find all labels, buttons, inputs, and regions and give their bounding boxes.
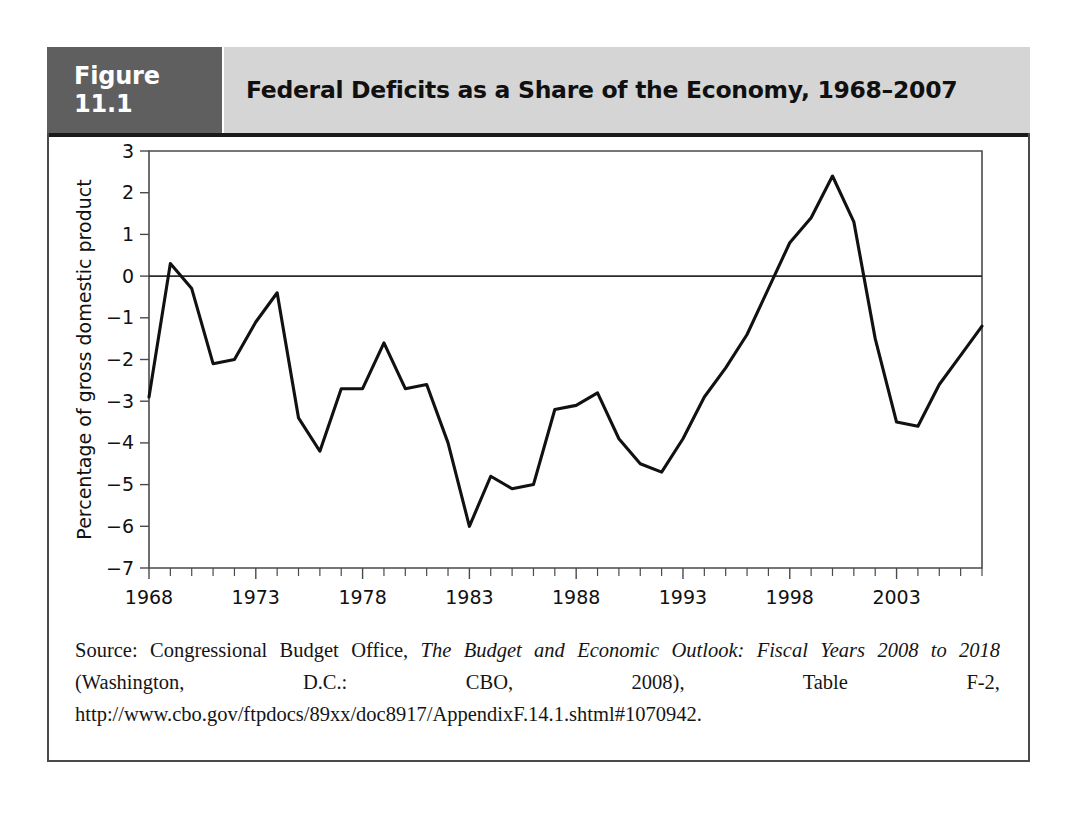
y-tick-label: −6 bbox=[106, 515, 134, 537]
x-tick-label: 1978 bbox=[338, 586, 386, 608]
y-tick-label: 2 bbox=[122, 181, 134, 203]
y-tick-label: −1 bbox=[106, 306, 134, 328]
source-prefix: Source: Congressional Budget Office, bbox=[75, 639, 421, 661]
y-axis: 3210−1−2−3−4−5−6−7 bbox=[106, 140, 149, 579]
chart-area: 3210−1−2−3−4−5−6−7 196819731978198319881… bbox=[47, 137, 1030, 617]
figure-header: Figure 11.1 Federal Deficits as a Share … bbox=[47, 47, 1030, 133]
x-tick-label: 1993 bbox=[659, 586, 707, 608]
y-tick-label: −4 bbox=[106, 431, 134, 453]
line-chart: 3210−1−2−3−4−5−6−7 196819731978198319881… bbox=[47, 137, 1030, 617]
x-tick-label: 1998 bbox=[766, 586, 814, 608]
figure-container: Figure 11.1 Federal Deficits as a Share … bbox=[47, 47, 1030, 762]
y-tick-label: −2 bbox=[106, 348, 134, 370]
y-tick-label: −7 bbox=[106, 557, 134, 579]
plot-frame bbox=[149, 151, 982, 568]
x-tick-label: 1968 bbox=[125, 586, 173, 608]
x-axis: 19681973197819831988199319982003 bbox=[125, 568, 982, 608]
y-tick-label: 3 bbox=[122, 140, 134, 162]
source-publication-title: The Budget and Economic Outlook: Fiscal … bbox=[421, 639, 1000, 661]
source-note: Source: Congressional Budget Office, The… bbox=[75, 634, 1000, 730]
y-tick-label: −3 bbox=[106, 390, 134, 412]
y-tick-label: −5 bbox=[106, 473, 134, 495]
figure-title: Federal Deficits as a Share of the Econo… bbox=[222, 47, 1030, 133]
y-axis-title: Percentage of gross domestic product bbox=[73, 179, 95, 539]
x-tick-label: 1973 bbox=[232, 586, 280, 608]
deficit-series-line bbox=[149, 176, 982, 526]
y-tick-label: 1 bbox=[122, 223, 134, 245]
y-tick-label: 0 bbox=[122, 265, 134, 287]
x-tick-label: 1988 bbox=[552, 586, 600, 608]
x-tick-label: 2003 bbox=[872, 586, 920, 608]
source-suffix: (Washington, D.C.: CBO, 2008), Table F-2… bbox=[75, 671, 1000, 725]
x-tick-label: 1983 bbox=[445, 586, 493, 608]
figure-number-label: Figure 11.1 bbox=[47, 47, 222, 133]
